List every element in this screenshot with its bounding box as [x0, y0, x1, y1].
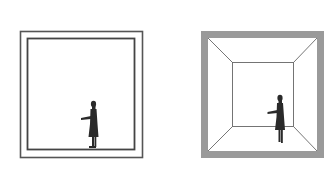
diagram-canvas: [0, 0, 336, 171]
edge-bottom-left: [208, 127, 233, 152]
outer-frame: [21, 32, 143, 158]
edge-bottom-right: [294, 127, 318, 152]
person-silhouette-icon: [81, 101, 99, 148]
flat-room-panel: [21, 32, 143, 158]
inner-frame: [28, 39, 135, 150]
edge-top-left: [208, 38, 233, 63]
back-wall: [233, 63, 294, 127]
perspective-room-panel: [201, 31, 324, 158]
edge-top-right: [294, 38, 318, 63]
person-silhouette-icon: [268, 95, 286, 143]
